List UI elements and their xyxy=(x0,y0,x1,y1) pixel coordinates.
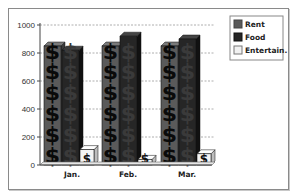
y-axis: 02004006008001000 xyxy=(17,21,40,170)
dollar-pictogram-icon: $ xyxy=(162,39,177,64)
dollar-pictogram-icon: $ xyxy=(180,39,195,64)
bar-food-jan: $$$$$$ xyxy=(62,39,83,169)
legend-label-food: Food xyxy=(245,33,266,42)
bar-chart: 02004006008001000 $$$$$$$$$$$$$$$$$$$$$$… xyxy=(0,0,294,195)
y-tick-label: 600 xyxy=(22,77,36,86)
y-tick-label: 200 xyxy=(22,133,36,142)
legend-label-entertain: Entertain. xyxy=(245,46,287,55)
legend-swatch-rent xyxy=(234,20,242,28)
dollar-pictogram-icon: $ xyxy=(45,39,60,64)
y-tick-label: 800 xyxy=(22,49,36,58)
dollar-pictogram-icon: $ xyxy=(103,39,118,64)
x-tick-label: Feb. xyxy=(119,170,137,179)
x-tick-label: Mar. xyxy=(178,170,196,179)
y-tick-label: 1000 xyxy=(17,21,35,30)
bar-food-mar: $$$$$$ xyxy=(179,35,200,168)
dollar-pictogram-icon: $ xyxy=(63,39,78,64)
bar-food-feb: $$$$$$ xyxy=(120,32,141,168)
legend-swatch-entertain xyxy=(234,46,242,54)
x-axis: Jan.Feb.Mar. xyxy=(40,162,215,179)
legend-label-rent: Rent xyxy=(245,20,265,29)
legend: Rent Food Entertain. xyxy=(230,16,287,60)
bars: $$$$$$$$$$$$$$$$$$$$$$$$$$$$$$$$$$$$$$$ xyxy=(44,32,215,168)
legend-swatch-food xyxy=(234,33,242,41)
y-tick-label: 400 xyxy=(22,105,36,114)
y-tick-label: 0 xyxy=(31,161,36,170)
dollar-pictogram-icon: $ xyxy=(121,39,136,64)
x-tick-label: Jan. xyxy=(63,170,80,179)
